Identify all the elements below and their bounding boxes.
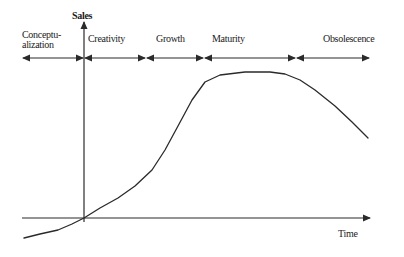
phase-label-obsolescence: Obsolescence xyxy=(323,34,374,44)
sales-curve xyxy=(24,72,368,238)
y-axis-label: Sales xyxy=(72,11,92,21)
x-axis-label: Time xyxy=(338,229,358,239)
phase-label-conceptualization: Conceptu- alization xyxy=(22,30,61,50)
phase-label-creativity: Creativity xyxy=(88,34,125,44)
phase-label-growth: Growth xyxy=(156,34,185,44)
phase-label-maturity: Maturity xyxy=(212,34,245,44)
